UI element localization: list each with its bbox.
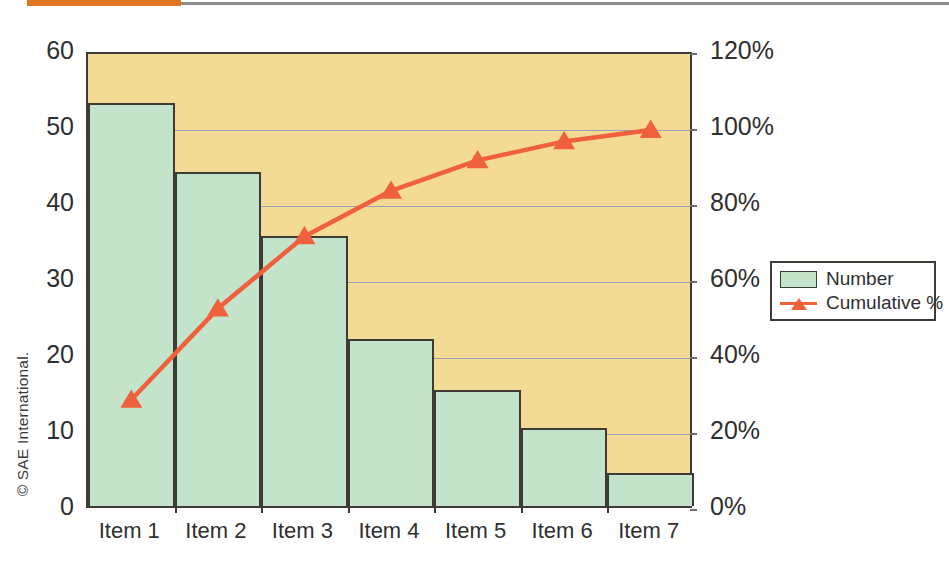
- y-axis-label: 10: [0, 416, 74, 445]
- y2-axis-label: 60%: [710, 264, 760, 293]
- x-axis-tick: [521, 506, 523, 513]
- cumulative-marker: [293, 226, 315, 244]
- x-axis-tick: [261, 506, 263, 513]
- y2-axis-label: 120%: [710, 36, 774, 65]
- cumulative-markers-group: [120, 120, 661, 408]
- cumulative-line-series: [88, 54, 694, 510]
- y2-axis-tick: [690, 509, 697, 511]
- y2-axis-tick: [690, 357, 697, 359]
- y2-axis-label: 100%: [710, 112, 774, 141]
- y2-axis-tick: [690, 205, 697, 207]
- x-axis-label: Item 6: [519, 518, 606, 544]
- y2-axis-label: 0%: [710, 492, 746, 521]
- y2-axis-tick: [690, 129, 697, 131]
- y2-axis-label: 80%: [710, 188, 760, 217]
- y2-axis-label: 20%: [710, 416, 760, 445]
- y-axis-label: 60: [0, 36, 74, 65]
- x-axis-label: Item 3: [259, 518, 346, 544]
- square-swatch-icon: [780, 271, 817, 288]
- y2-axis-tick: [690, 53, 697, 55]
- x-axis-tick: [607, 506, 609, 513]
- cumulative-marker: [640, 120, 662, 138]
- y-axis-label: 30: [0, 264, 74, 293]
- x-axis-tick: [175, 506, 177, 513]
- y-axis-label: 50: [0, 112, 74, 141]
- triangle-line-icon: [780, 295, 817, 312]
- plot-area: [86, 52, 692, 508]
- legend-item-number: Number: [780, 268, 894, 290]
- x-axis-tick: [348, 506, 350, 513]
- x-axis-tick: [434, 506, 436, 513]
- x-axis-label: Item 4: [346, 518, 433, 544]
- x-axis-label: Item 5: [432, 518, 519, 544]
- legend-label-cumulative: Cumulative %: [826, 292, 943, 314]
- legend-item-cumulative: Cumulative %: [780, 292, 943, 314]
- legend-label-number: Number: [826, 268, 894, 290]
- y2-axis-tick: [690, 281, 697, 283]
- y-axis-label: 20: [0, 340, 74, 369]
- x-axis-label: Item 2: [173, 518, 260, 544]
- y2-axis-label: 40%: [710, 340, 760, 369]
- y-axis-label: 40: [0, 188, 74, 217]
- x-axis-label: Item 7: [605, 518, 692, 544]
- cumulative-line-path: [131, 130, 650, 400]
- y2-axis-tick: [690, 433, 697, 435]
- y-axis-label: 0: [0, 492, 74, 521]
- x-axis-label: Item 1: [86, 518, 173, 544]
- chart-legend: Number Cumulative %: [770, 261, 936, 321]
